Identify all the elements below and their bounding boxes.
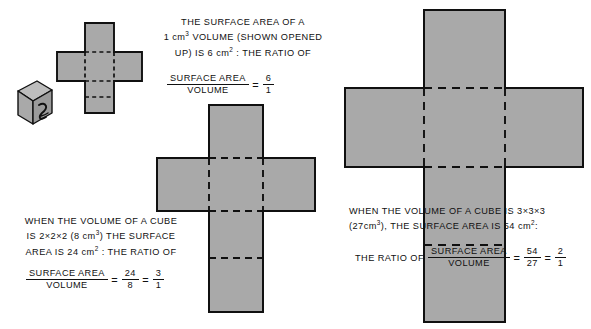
caption-2-line-1: WHEN THE VOLUME OF A CUBE [12,216,190,227]
caption-1-line-3-a: UP) IS 6 cm [175,48,229,58]
ratio-2-result-num: 3 [153,268,165,280]
caption-1-line-3: UP) IS 6 cm2 : THE RATIO OF [148,44,338,59]
caption-2-line-2-b: ) THE SURFACE [100,231,176,241]
caption-1-line-2-a: 1 cm [164,32,186,42]
ratio-2-denominator: VOLUME [43,280,91,291]
ratio-1-result: 6 1 [263,73,275,96]
ratio-3-mid: 54 27 [524,246,541,269]
net2-face-top [209,105,263,158]
caption-1-line-2: 1 cm3 VOLUME (SHOWN OPENED [148,28,338,43]
net2-face-bottom [209,211,263,312]
ratio-1-equals: = [249,79,263,91]
caption-1-line-1: THE SURFACE AREA OF A [148,17,338,28]
ratio-3-result-den: 1 [555,258,567,269]
ratio-3-numerator: SURFACE AREA [428,246,510,258]
caption-3-line-2-b: ), THE SURFACE AREA IS 54 cm [381,221,531,231]
ratio-2-numerator: SURFACE AREA [26,268,108,280]
ratio-2-fraction: SURFACE AREA VOLUME [26,268,108,291]
net1-face-row [57,52,142,81]
ratio-1-result-den: 1 [263,85,275,96]
ratio-2-mid-den: 8 [125,280,137,291]
ratio-expression-2: SURFACE AREA VOLUME = 24 8 = 3 1 [26,268,164,291]
caption-2-line-2-a: IS 2×2×2 (8 cm [27,231,96,241]
ratio-2-mid: 24 8 [122,268,139,291]
ratio-1-result-num: 6 [263,73,275,85]
ratio-3-fraction: SURFACE AREA VOLUME [428,246,510,269]
ratio-expression-3: THE RATIO OF SURFACE AREA VOLUME = 54 27… [355,246,566,269]
caption-3-line-2-a: (27cm [349,221,377,231]
caption-1-line-3-b: : THE RATIO OF [233,48,311,58]
caption-2-line-3-b: : THE RATIO OF [99,247,177,257]
ratio-3-mid-den: 27 [524,258,541,269]
ratio-1-denominator: VOLUME [184,85,232,96]
ratio-1-numerator: SURFACE AREA [167,73,249,85]
net1-face-bottom [85,81,114,113]
ratio-1-fraction: SURFACE AREA VOLUME [167,73,249,96]
caption-block-3: WHEN THE VOLUME OF A CUBE IS 3×3×3 (27cm… [349,206,545,233]
caption-2-line-3-a: AREA IS 24 cm [25,247,94,257]
net3-face-top [424,10,505,88]
ratio-3-result-num: 2 [555,246,567,258]
caption-3-line-2: (27cm3), THE SURFACE AREA IS 54 cm2: [349,217,545,232]
caption-3-line-2-c: : [535,221,538,231]
ratio-3-equals-1: = [510,252,524,264]
caption-2-line-3: AREA IS 24 cm2 : THE RATIO OF [12,243,190,258]
net2-face-row [157,158,315,211]
unit-cube-svg [6,79,56,131]
ratio-expression-1: SURFACE AREA VOLUME = 6 1 [167,73,274,96]
ratio-3-equals-2: = [541,252,555,264]
ratio-3-mid-num: 54 [524,246,541,258]
ratio-3-lead: THE RATIO OF [355,253,428,263]
unit-cube [6,79,56,131]
ratio-3-denominator: VOLUME [445,258,493,269]
caption-3-line-1: WHEN THE VOLUME OF A CUBE IS 3×3×3 [349,206,545,217]
caption-block-2: WHEN THE VOLUME OF A CUBE IS 2×2×2 (8 cm… [12,216,190,258]
ratio-2-result: 3 1 [153,268,165,291]
net1-face-top [85,23,114,52]
caption-2-line-2: IS 2×2×2 (8 cm3) THE SURFACE [12,227,190,242]
ratio-3-result: 2 1 [555,246,567,269]
net3-face-bottom [424,167,505,322]
caption-1-line-2-b: VOLUME (SHOWN OPENED [189,32,322,42]
ratio-2-mid-num: 24 [122,268,139,280]
ratio-2-equals-2: = [139,274,153,286]
net3-face-row [345,88,583,167]
ratio-2-equals-1: = [108,274,122,286]
caption-block-1: THE SURFACE AREA OF A 1 cm3 VOLUME (SHOW… [148,17,338,59]
ratio-2-result-den: 1 [153,280,165,291]
figure-canvas: THE SURFACE AREA OF A 1 cm3 VOLUME (SHOW… [0,0,591,329]
